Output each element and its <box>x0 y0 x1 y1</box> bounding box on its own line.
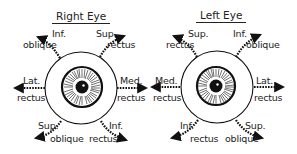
label-line1: Inf. <box>180 120 194 131</box>
label-right-inf-rectus: Inf. <box>109 121 123 131</box>
label-left-med-rectus-2: rectus <box>153 93 181 103</box>
label-left-sup-rectus-2: rectus <box>166 40 194 50</box>
label-line1: Sup. <box>188 28 208 39</box>
label-right-med-rectus-2: rectus <box>117 93 145 103</box>
label-left-lat-rectus-2: rectus <box>254 93 282 103</box>
label-line2: rectus <box>254 92 282 103</box>
right-eye-title: Right Eye <box>52 10 110 24</box>
right-eye <box>15 36 146 140</box>
label-line2: oblique <box>23 39 57 50</box>
label-line2: rectus <box>153 92 181 103</box>
label-right-sup-oblique-2: oblique <box>50 134 84 144</box>
label-line2: rectus <box>107 39 135 50</box>
label-line1: Sup. <box>245 120 265 131</box>
label-left-inf-rectus: Inf. <box>180 121 194 131</box>
label-line2: oblique <box>225 133 259 144</box>
label-left-inf-rectus-2: rectus <box>190 134 218 144</box>
label-line1: Inf. <box>52 28 66 39</box>
label-right-sup-rectus: Sup. <box>96 29 116 39</box>
label-line2: rectus <box>190 133 218 144</box>
label-right-inf-oblique-2: oblique <box>23 40 57 50</box>
label-right-sup-oblique: Sup. <box>38 121 58 131</box>
label-left-med-rectus: Med. <box>155 76 177 86</box>
label-line2: rectus <box>117 92 145 103</box>
left-eye-pupil <box>210 80 223 93</box>
label-line2: rectus <box>89 133 117 144</box>
label-line1: Lat. <box>23 75 40 86</box>
label-line1: Med. <box>120 75 142 86</box>
label-line1: Sup. <box>96 28 116 39</box>
label-right-med-rectus: Med. <box>120 76 142 86</box>
right-eye-pupil <box>76 81 89 94</box>
label-line2: rectus <box>166 39 194 50</box>
label-right-lat-rectus-2: rectus <box>17 93 45 103</box>
label-line1: Med. <box>155 75 177 86</box>
label-left-inf-oblique-2: oblique <box>246 40 280 50</box>
left-eye-highlight <box>216 83 218 85</box>
label-left-sup-rectus: Sup. <box>188 29 208 39</box>
label-line1: Sup. <box>38 120 58 131</box>
label-line1: Lat. <box>256 75 273 86</box>
label-left-sup-oblique-2: oblique <box>225 134 259 144</box>
label-right-lat-rectus: Lat. <box>23 76 40 86</box>
label-line2: oblique <box>246 39 280 50</box>
label-left-inf-oblique: Inf. <box>233 29 247 39</box>
label-line2: rectus <box>17 92 45 103</box>
right-eye-highlight <box>82 84 84 86</box>
label-right-inf-rectus-2: rectus <box>89 134 117 144</box>
label-line1: Inf. <box>233 28 247 39</box>
label-left-lat-rectus: Lat. <box>256 76 273 86</box>
label-right-inf-oblique: Inf. <box>52 29 66 39</box>
label-line1: Inf. <box>109 120 123 131</box>
label-line2: oblique <box>50 133 84 144</box>
left-eye-title: Left Eye <box>196 9 246 23</box>
label-left-sup-oblique: Sup. <box>245 121 265 131</box>
label-right-sup-rectus-2: rectus <box>107 40 135 50</box>
